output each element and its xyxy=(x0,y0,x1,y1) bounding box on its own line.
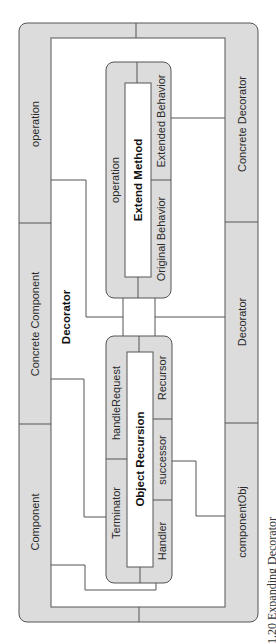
outer-left-concrete-component-label: Concrete Component xyxy=(29,272,41,377)
outer-right-decorator-label: Decorator xyxy=(236,298,248,347)
handler-label: Handler xyxy=(156,521,168,560)
recursor-label: Recursor xyxy=(156,355,168,400)
outer-left-component-label: Component xyxy=(29,494,41,551)
terminator-label: Terminator xyxy=(110,487,122,539)
original-behavior-label: Original Behavior xyxy=(155,196,167,281)
decorator-diagram: operation Concrete Component Component C… xyxy=(0,0,276,644)
extend-method-operation-label: operation xyxy=(109,157,121,203)
figure-caption: 1.20 Expanding Decorator xyxy=(265,517,276,644)
outer-right-componentobj-label: componentObj xyxy=(236,486,248,558)
outer-left-operation-label: operation xyxy=(29,101,41,147)
extend-method-title: Extend Method xyxy=(132,139,144,221)
successor-label: successor xyxy=(156,435,168,485)
outer-right-concrete-decorator-label: Concrete Decorator xyxy=(236,76,248,172)
object-recursion-title: Object Recursion xyxy=(134,411,146,506)
handlerequest-label: handleRequest xyxy=(110,366,122,440)
decorator-title: Decorator xyxy=(60,289,72,344)
extended-behavior-label: Extended Behavior xyxy=(155,74,167,167)
